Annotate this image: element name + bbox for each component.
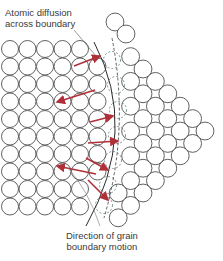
- atom: [72, 41, 89, 58]
- atom: [2, 76, 19, 93]
- atom: [2, 58, 19, 75]
- atom: [19, 76, 36, 93]
- boundary-atom: [96, 197, 113, 214]
- atom: [54, 146, 71, 163]
- atom: [37, 93, 54, 110]
- atom: [2, 146, 19, 163]
- atom: [54, 128, 71, 145]
- atom: [37, 198, 54, 215]
- atom: [54, 41, 71, 58]
- atom: [19, 181, 36, 198]
- atom: [89, 146, 106, 163]
- atom: [2, 163, 19, 180]
- grain-boundary-diagram: [0, 0, 223, 261]
- atom: [37, 163, 54, 180]
- atom: [2, 128, 19, 145]
- motion-label: Direction of grain boundary motion: [66, 230, 138, 252]
- atom: [54, 58, 71, 75]
- atom: [37, 41, 54, 58]
- atom: [109, 184, 127, 202]
- atom: [89, 163, 106, 180]
- atom: [2, 181, 19, 198]
- atom: [109, 209, 127, 227]
- right-grain-atoms: [106, 13, 214, 227]
- atom: [122, 97, 140, 115]
- atom: [2, 198, 19, 215]
- atom: [19, 93, 36, 110]
- atom: [89, 76, 106, 93]
- atom: [72, 128, 89, 145]
- atom: [37, 146, 54, 163]
- atom: [122, 72, 140, 90]
- atom: [2, 41, 19, 58]
- atom: [72, 111, 89, 128]
- atom: [54, 93, 71, 110]
- atom: [72, 198, 89, 215]
- atom: [54, 111, 71, 128]
- left-grain-atoms: [2, 41, 107, 216]
- atom: [19, 41, 36, 58]
- diffusion-label: Atomic diffusion across boundary: [5, 7, 75, 29]
- motion-label-line2: boundary motion: [66, 241, 138, 252]
- atom: [19, 111, 36, 128]
- atom: [72, 76, 89, 93]
- atom: [122, 48, 140, 66]
- atom: [37, 111, 54, 128]
- atom: [19, 198, 36, 215]
- atom: [2, 111, 19, 128]
- atom: [37, 76, 54, 93]
- diffusion-label-line2: across boundary: [5, 18, 75, 29]
- atom: [54, 76, 71, 93]
- atom: [122, 147, 140, 165]
- atom: [37, 58, 54, 75]
- motion-label-line1: Direction of grain: [66, 230, 138, 241]
- atom: [19, 58, 36, 75]
- atom: [54, 181, 71, 198]
- atom: [54, 163, 71, 180]
- diffusion-label-line1: Atomic diffusion: [5, 7, 75, 18]
- atom: [37, 181, 54, 198]
- atom: [37, 128, 54, 145]
- atom: [72, 146, 89, 163]
- atom: [54, 198, 71, 215]
- atom: [89, 93, 106, 110]
- atom: [19, 163, 36, 180]
- atom: [117, 25, 135, 43]
- atom: [19, 146, 36, 163]
- atom: [2, 93, 19, 110]
- atom: [19, 128, 36, 145]
